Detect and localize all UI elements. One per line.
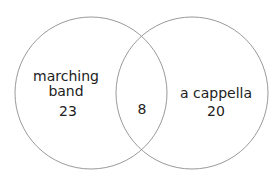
a-cappella-label: a cappella — [180, 86, 252, 101]
a-cappella-count: 20 — [207, 104, 225, 119]
marching-band-label: marching band — [33, 69, 99, 99]
marching-band-count: 23 — [59, 104, 77, 119]
overlap-count: 8 — [138, 102, 147, 117]
